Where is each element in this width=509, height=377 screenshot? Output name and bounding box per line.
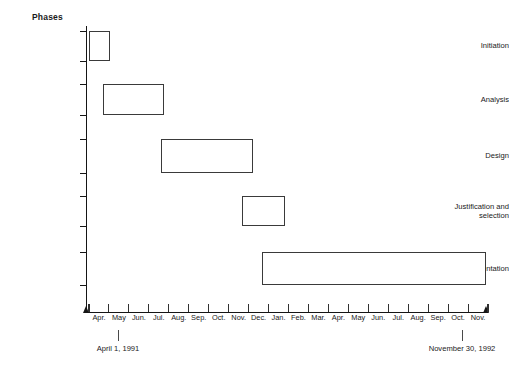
x-axis-tick bbox=[448, 304, 449, 312]
x-axis-tick bbox=[148, 304, 149, 312]
x-axis-label: Mar. bbox=[311, 313, 325, 322]
x-axis-label: Apr. bbox=[332, 313, 345, 322]
y-axis-tick bbox=[80, 226, 87, 227]
x-axis-tick bbox=[228, 304, 229, 312]
x-axis-label: Feb. bbox=[291, 313, 306, 322]
gantt-bar-design bbox=[161, 139, 253, 173]
x-axis-tick bbox=[268, 304, 269, 312]
x-axis-label: Aug. bbox=[411, 313, 426, 322]
x-axis-tick bbox=[208, 304, 209, 312]
x-axis-tick bbox=[428, 304, 429, 312]
gantt-bar-analysis bbox=[103, 84, 164, 115]
y-axis-tick bbox=[80, 84, 87, 85]
x-axis-tick bbox=[128, 304, 129, 312]
y-axis-tick bbox=[80, 252, 87, 253]
x-axis-tick bbox=[308, 304, 309, 312]
y-axis-tick bbox=[80, 115, 87, 116]
x-axis-tick bbox=[468, 304, 469, 312]
y-axis-tick bbox=[80, 61, 87, 62]
y-axis-tick bbox=[80, 196, 87, 197]
x-axis-tick bbox=[248, 304, 249, 312]
gantt-bar-justification-and-selection bbox=[242, 196, 285, 226]
x-axis-label: May bbox=[351, 313, 365, 322]
gantt-chart: Phases InitiationAnalysisDesignJustifica… bbox=[0, 0, 509, 377]
x-axis-tick bbox=[188, 304, 189, 312]
x-axis-label: Aug. bbox=[171, 313, 186, 322]
x-axis-label: Nov. bbox=[231, 313, 246, 322]
x-axis-label: Jul. bbox=[153, 313, 165, 322]
start-date-caption: April 1, 1991 bbox=[97, 344, 140, 353]
x-axis-tick bbox=[348, 304, 349, 312]
x-axis-label: Jun. bbox=[132, 313, 146, 322]
x-axis-label: Oct. bbox=[212, 313, 226, 322]
x-axis-label: Apr. bbox=[92, 313, 105, 322]
x-axis-label: Nov. bbox=[471, 313, 486, 322]
x-axis-label: Dec. bbox=[251, 313, 266, 322]
x-axis-label: Jul. bbox=[392, 313, 404, 322]
phase-label-justification-and-selection: Justification and selection bbox=[431, 202, 509, 221]
x-axis-label: May bbox=[112, 313, 126, 322]
phases-axis-title: Phases bbox=[32, 12, 63, 22]
x-axis-label: Jan. bbox=[272, 313, 286, 322]
y-axis-tick bbox=[80, 31, 87, 32]
end-date-leader-line bbox=[462, 330, 463, 341]
gantt-bar-implementation bbox=[262, 252, 486, 285]
x-axis-tick bbox=[487, 304, 488, 312]
x-axis-tick bbox=[88, 304, 89, 312]
phase-label-design: Design bbox=[431, 151, 509, 161]
x-axis-tick bbox=[388, 304, 389, 312]
x-axis-line bbox=[86, 312, 487, 313]
x-axis-tick bbox=[368, 304, 369, 312]
end-date-caption: November 30, 1992 bbox=[429, 344, 496, 353]
y-axis-tick bbox=[80, 173, 87, 174]
y-axis-line bbox=[86, 26, 87, 313]
gantt-bar-initiation bbox=[89, 31, 110, 61]
y-axis-tick bbox=[80, 139, 87, 140]
x-axis-tick bbox=[108, 304, 109, 312]
x-axis-tick bbox=[168, 304, 169, 312]
x-axis-tick bbox=[408, 304, 409, 312]
x-axis-label: Sep. bbox=[191, 313, 206, 322]
x-axis-tick bbox=[288, 304, 289, 312]
phase-label-initiation: Initiation bbox=[431, 41, 509, 51]
x-axis-label: Jun. bbox=[371, 313, 385, 322]
x-axis-tick bbox=[328, 304, 329, 312]
phase-label-analysis: Analysis bbox=[431, 95, 509, 105]
x-axis-label: Oct. bbox=[451, 313, 465, 322]
y-axis-tick bbox=[80, 285, 87, 286]
start-date-leader-line bbox=[118, 330, 119, 341]
x-axis-label: Sep. bbox=[431, 313, 446, 322]
